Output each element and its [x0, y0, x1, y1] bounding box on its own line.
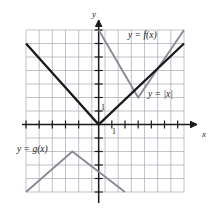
x-axis-tick-label-1: 1 — [112, 128, 116, 136]
x-axis-label: x — [202, 130, 206, 139]
curve-g-label: y = g(x) — [17, 145, 48, 155]
curve-g — [26, 152, 125, 193]
graph-canvas — [0, 0, 216, 216]
y-axis-tick-label-1: 1 — [101, 104, 105, 112]
curve-f-label: y = f(x) — [128, 31, 157, 41]
graph-figure: y x 1 1 y = f(x) y = |x| y = g(x) — [0, 0, 216, 216]
y-axis-label: y — [92, 10, 96, 19]
grid-lines — [26, 30, 184, 192]
curve-abs-label: y = |x| — [148, 90, 173, 100]
